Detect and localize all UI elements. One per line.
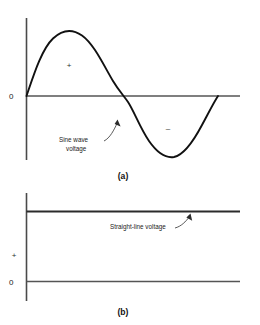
panel-a-positive-sign: + [67,61,72,70]
figure-container: 0 + – Sine wave voltage (a) + 0 Straight… [0,0,260,325]
panel-b-caption: (b) [118,307,129,317]
panel-a-annotation-line-1: Sine wave [59,136,89,143]
panel-a-group: 0 + – Sine wave voltage (a) [9,18,240,181]
panel-b-zero-tick-label: 0 [9,278,14,287]
panel-a-sine-wave-curve [27,31,219,157]
panel-a-negative-sign: – [166,124,171,133]
panel-b-group: + 0 Straight-line voltage (b) [9,193,240,317]
panel-a-annotation-leader [104,123,118,142]
panel-a-caption: (a) [118,171,129,181]
panel-a-annotation-line-2: voltage [66,145,87,153]
waveform-figure: 0 + – Sine wave voltage (a) + 0 Straight… [0,0,260,325]
panel-b-annotation-label: Straight-line voltage [110,223,166,231]
panel-a-zero-tick-label: 0 [9,92,14,101]
panel-b-annotation-leader [175,217,190,229]
panel-b-positive-sign: + [12,251,17,260]
panel-a-annotation-arrow-icon [115,120,121,127]
